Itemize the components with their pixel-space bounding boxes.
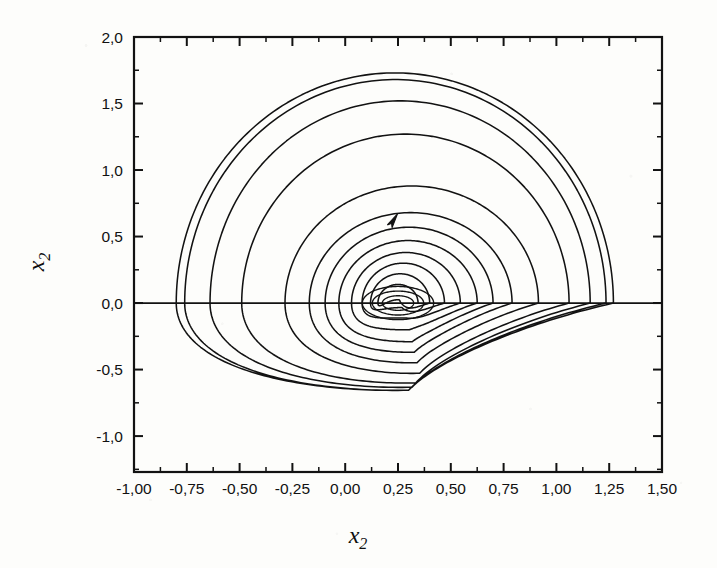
axis-ticks [134, 37, 662, 472]
y-tick-label: 2,0 [101, 29, 123, 46]
x-tick-label: 0,00 [330, 480, 361, 497]
x-axis-title: x2 [348, 522, 368, 552]
y-tick-label: 0,0 [101, 295, 123, 312]
x-tick-label: -0,50 [222, 480, 258, 497]
x-tick-label: 1,50 [647, 480, 678, 497]
x-tick-label: -1,00 [116, 480, 152, 497]
phase-portrait-chart: -1,00-0,75-0,50-0,250,000,250,500,751,00… [0, 0, 717, 568]
y-axis-tick-labels: 2,01,51,00,50,0-0,5-1,0 [96, 29, 123, 445]
x-tick-label: -0,25 [275, 480, 310, 497]
x-tick-label: 0,50 [436, 480, 467, 497]
y-tick-label: -1,0 [96, 428, 123, 445]
plot-frame [134, 37, 662, 472]
x-tick-label: 0,75 [489, 480, 519, 497]
y-tick-label: 0,5 [101, 228, 123, 245]
y-tick-label: 1,0 [101, 162, 123, 179]
x-tick-label: 1,25 [594, 480, 624, 497]
y-axis-title: x2 [23, 253, 53, 273]
x-tick-label: 1,00 [541, 480, 572, 497]
x-tick-label: 0,25 [383, 480, 413, 497]
trajectory-curves [176, 73, 613, 390]
x-axis-tick-labels: -1,00-0,75-0,50-0,250,000,250,500,751,00… [116, 480, 677, 497]
direction-arrow-icon [387, 214, 397, 228]
x-tick-label: -0,75 [169, 480, 204, 497]
phase-portrait-figure: -1,00-0,75-0,50-0,250,000,250,500,751,00… [0, 0, 717, 568]
y-tick-label: -0,5 [96, 361, 123, 378]
y-tick-label: 1,5 [101, 95, 123, 112]
